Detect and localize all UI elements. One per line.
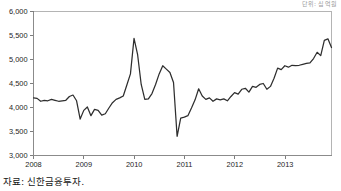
x-tick-label: 2013 xyxy=(277,160,293,169)
y-tick-label: 5,500 xyxy=(9,31,28,40)
x-axis-ticks: 200820092010201120122013 xyxy=(25,156,293,170)
y-tick-label: 5,000 xyxy=(9,55,28,64)
chart-figure: 단위: 십억원 3,0003,5004,0004,5005,0005,5006,… xyxy=(0,0,341,191)
y-tick-label: 4,000 xyxy=(9,103,28,112)
y-tick-label: 3,000 xyxy=(9,151,28,160)
units-note: 단위: 십억원 xyxy=(302,0,337,8)
x-tick-label: 2011 xyxy=(177,160,193,169)
x-tick-label: 2008 xyxy=(25,160,41,169)
x-tick-label: 2010 xyxy=(126,160,142,169)
x-tick-label: 2012 xyxy=(227,160,243,169)
source-note: 자료: 신한금융투자. xyxy=(3,174,84,188)
y-tick-label: 6,000 xyxy=(9,7,28,16)
y-tick-label: 4,500 xyxy=(9,79,28,88)
line-chart-plot: 3,0003,5004,0004,5005,0005,5006,000 2008… xyxy=(0,0,341,170)
data-series-line xyxy=(34,38,332,136)
y-axis-ticks: 3,0003,5004,0004,5005,0005,5006,000 xyxy=(9,7,34,160)
y-tick-label: 3,500 xyxy=(9,127,28,136)
x-tick-label: 2009 xyxy=(76,160,92,169)
